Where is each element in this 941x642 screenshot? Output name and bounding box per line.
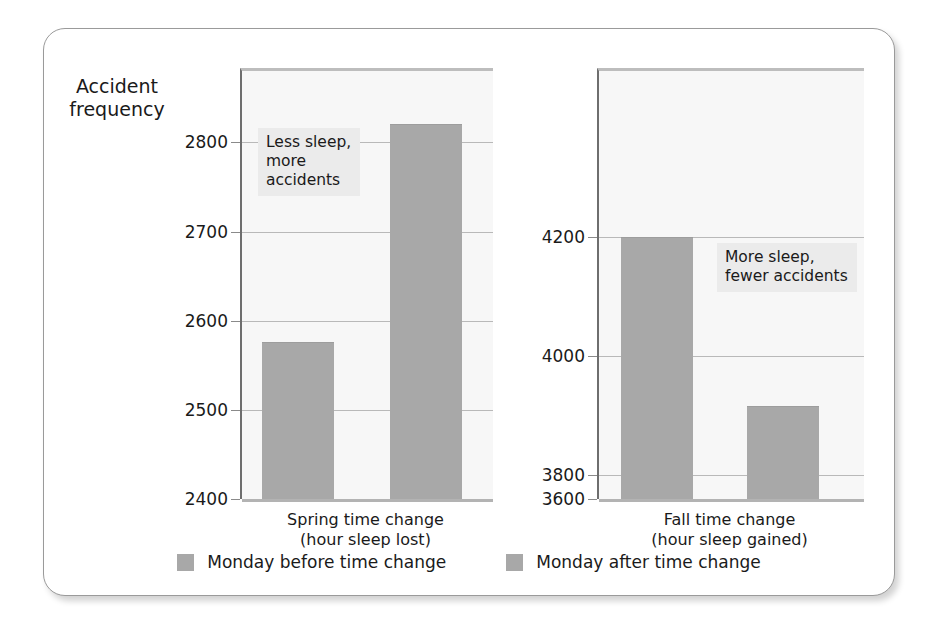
tick-label-3800: 3800: [542, 465, 585, 485]
bar-fall-before: [621, 237, 693, 499]
tick-mark-2700: [231, 232, 240, 233]
y-axis-title: Accident frequency: [47, 75, 187, 121]
annotation-spring: Less sleep, more accidents: [258, 128, 360, 196]
plot-area-spring: 2800 2700 2600 2500 2400 Less sleep, mor…: [240, 68, 493, 499]
tick-mark-4200: [588, 237, 597, 238]
tick-label-2800: 2800: [185, 132, 228, 152]
tick-label-2600: 2600: [185, 311, 228, 331]
legend-label-before: Monday before time change: [207, 552, 446, 572]
tick-mark-2400: [231, 499, 240, 500]
tick-label-2700: 2700: [185, 222, 228, 242]
bar-fall-after: [747, 406, 819, 499]
legend: Monday before time change Monday after t…: [43, 552, 895, 572]
annotation-fall: More sleep, fewer accidents: [717, 243, 857, 292]
legend-swatch-icon-after: [506, 554, 523, 571]
tick-mark-2500: [231, 410, 240, 411]
tick-mark-3800: [588, 475, 597, 476]
tick-label-4000: 4000: [542, 346, 585, 366]
legend-label-after: Monday after time change: [536, 552, 761, 572]
plot-area-fall: 4200 4000 3800 3600 More sleep, fewer ac…: [597, 68, 864, 499]
tick-mark-2600: [231, 321, 240, 322]
bar-spring-after: [390, 124, 462, 499]
tick-label-2400: 2400: [185, 489, 228, 509]
legend-swatch-icon-before: [177, 554, 194, 571]
tick-label-4200: 4200: [542, 227, 585, 247]
bar-spring-before: [262, 342, 334, 499]
tick-label-2500: 2500: [185, 400, 228, 420]
tick-label-3600: 3600: [542, 489, 585, 509]
tick-mark-4000: [588, 356, 597, 357]
chart-panel-spring: 2800 2700 2600 2500 2400 Less sleep, mor…: [195, 40, 500, 540]
tick-mark-3600: [588, 499, 597, 500]
legend-item-after: Monday after time change: [506, 552, 761, 572]
x-axis-label-fall: Fall time change (hour sleep gained): [597, 510, 862, 550]
tick-mark-2800: [231, 142, 240, 143]
x-axis-label-spring: Spring time change (hour sleep lost): [240, 510, 491, 550]
legend-item-before: Monday before time change: [177, 552, 446, 572]
chart-panel-fall: 4200 4000 3800 3600 More sleep, fewer ac…: [552, 40, 872, 540]
gridline-2400: 2400: [242, 499, 493, 500]
gridline-3600: 3600: [599, 499, 864, 500]
